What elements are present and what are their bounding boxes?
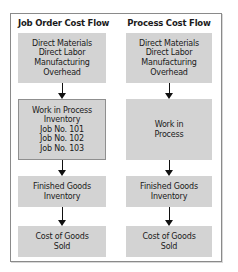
box-line: Inventory [32, 115, 92, 125]
box-line: Sold [35, 242, 88, 252]
job-order-title: Job Order Cost Flow [18, 18, 106, 28]
arrow-down-icon [165, 160, 174, 176]
job-order-wip-box: Work in Process Inventory Job No. 101 Jo… [18, 99, 106, 160]
process-cost-title: Process Cost Flow [126, 18, 212, 28]
job-order-inputs-box: Direct Materials Direct Labor Manufactur… [18, 33, 106, 83]
arrow-down-icon [165, 207, 174, 226]
box-line: Direct Labor [139, 48, 199, 58]
process-finished-goods-box: Finished Goods Inventory [126, 176, 212, 207]
box-line: Direct Labor [32, 48, 92, 58]
box-line: Cost of Goods [142, 232, 195, 242]
arrow-down-icon [58, 160, 67, 176]
box-line: Work in [155, 120, 184, 130]
box-line: Inventory [33, 192, 91, 202]
box-line: Work in Process [32, 106, 92, 116]
box-line: Finished Goods [33, 182, 91, 192]
box-line: Overhead [139, 68, 199, 78]
job-order-cogs-box: Cost of Goods Sold [18, 226, 106, 257]
box-line: Manufacturing [139, 58, 199, 68]
box-line: Direct Materials [139, 39, 199, 49]
box-line: Manufacturing [32, 58, 92, 68]
box-line: Job No. 103 [32, 144, 92, 154]
box-line: Sold [142, 242, 195, 252]
arrow-down-icon [165, 83, 174, 99]
box-line: Job No. 102 [32, 134, 92, 144]
process-cogs-box: Cost of Goods Sold [126, 226, 212, 257]
box-line: Job No. 101 [32, 125, 92, 135]
box-line: Cost of Goods [35, 232, 88, 242]
arrow-down-icon [58, 83, 67, 99]
process-inputs-box: Direct Materials Direct Labor Manufactur… [126, 33, 212, 83]
job-order-finished-goods-box: Finished Goods Inventory [18, 176, 106, 207]
box-line: Process [155, 130, 184, 140]
box-line: Direct Materials [32, 39, 92, 49]
arrow-down-icon [58, 207, 67, 226]
box-line: Overhead [32, 68, 92, 78]
box-line: Finished Goods [140, 182, 198, 192]
box-line: Inventory [140, 192, 198, 202]
process-wip-box: Work in Process [126, 99, 212, 160]
